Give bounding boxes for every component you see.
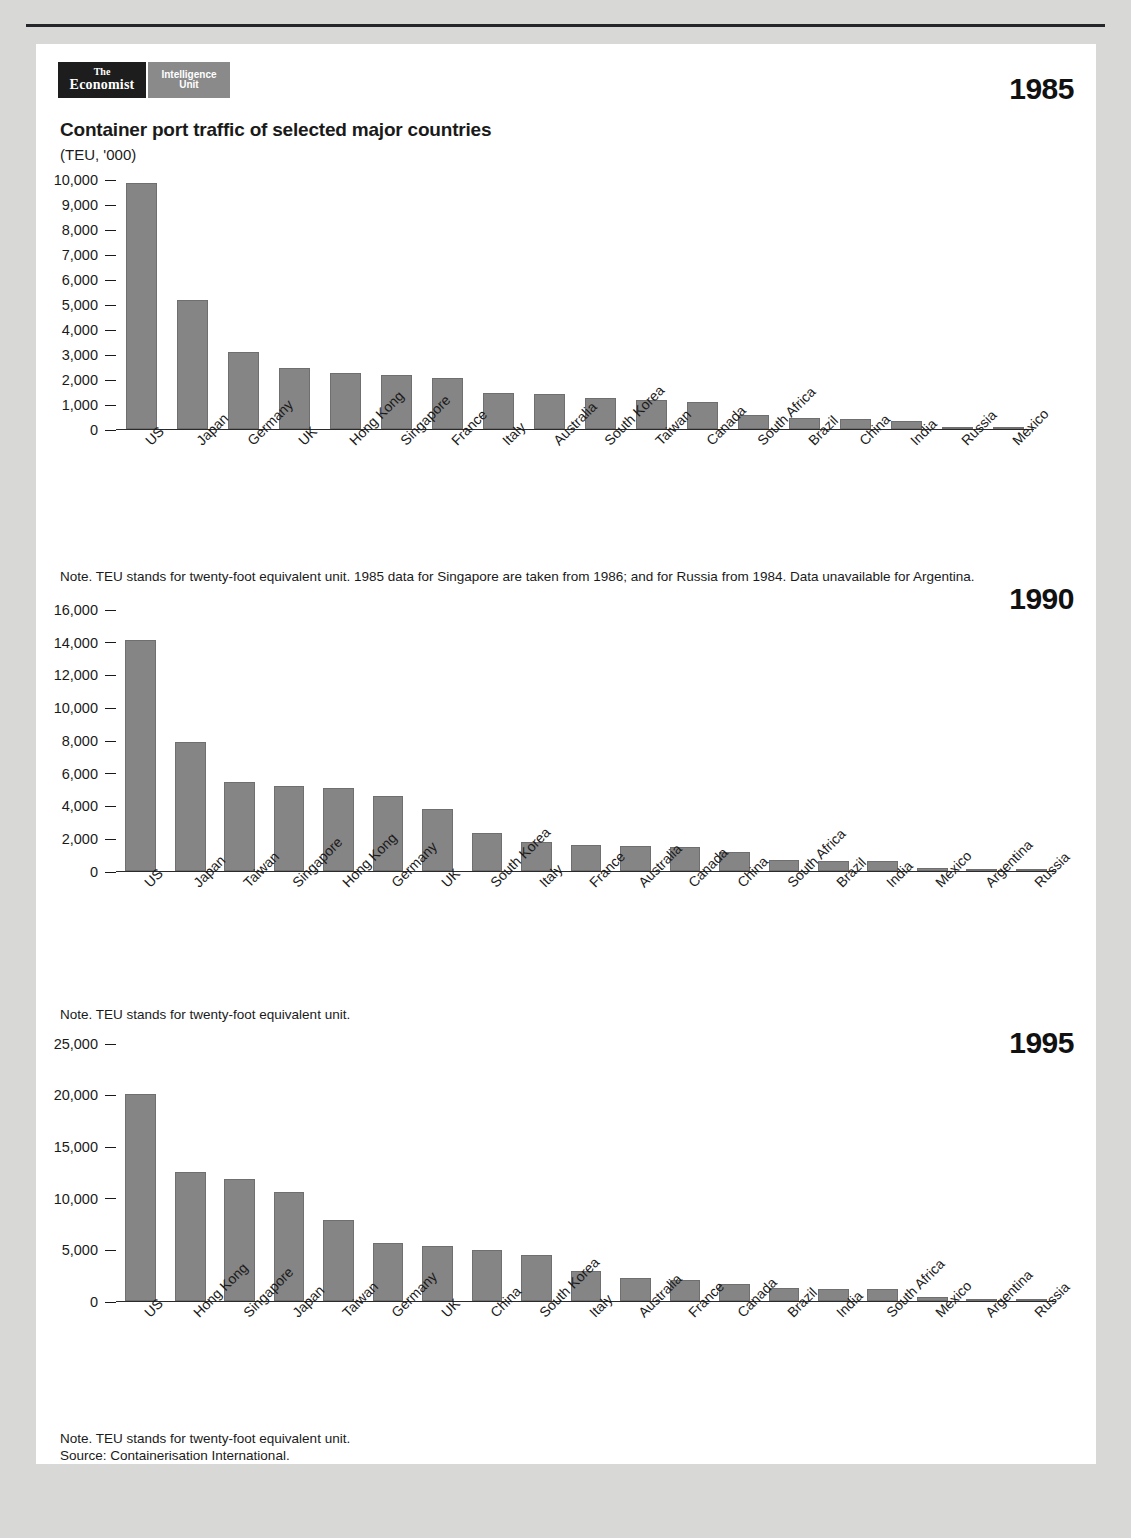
bar-slot [363,1044,412,1301]
y-tick-label: 9,000 [62,197,98,212]
bar-chart-1985: 01,0002,0003,0004,0005,0006,0007,0008,00… [36,180,1096,570]
bar-australia[interactable] [534,394,566,429]
y-tick-label: 14,000 [54,635,98,650]
bar-japan[interactable] [175,742,206,871]
x-label-slot: France [660,1304,709,1388]
y-tick-mark [105,1095,116,1096]
x-label-slot: Mexico [908,874,957,958]
note-text-line1: Note. TEU stands for twenty-foot equival… [60,1430,350,1447]
x-label-slot: Australia [611,874,660,958]
bar-us[interactable] [125,1094,156,1301]
x-label-slot: Germany [218,432,269,516]
x-label-slot: South Korea [512,1304,561,1388]
y-tick-label: 10,000 [54,172,98,187]
bar-slot [677,180,728,429]
y-tick-mark [105,741,116,742]
y-tick-mark [105,1302,116,1303]
x-label-slot: Canada [677,432,728,516]
x-label-slot: Hong Kong [165,1304,214,1388]
x-label-slot: US [116,432,167,516]
bar-slot [165,610,214,871]
y-tick-mark [105,430,116,431]
bar-germany[interactable] [228,352,260,429]
x-label-slot: Japan [264,1304,313,1388]
bar-slot [422,180,473,429]
x-label-slot: South Korea [575,432,626,516]
bar-hong-kong[interactable] [330,373,362,429]
bar-slot [116,1044,165,1301]
x-label-slot: Mexico [908,1304,957,1388]
bar-japan[interactable] [177,300,209,429]
x-label-slot: France [561,874,610,958]
note-source-line: Source: Containerisation International. [60,1447,350,1464]
bar-slot [413,1044,462,1301]
bar-slot [957,610,1006,871]
y-tick-mark [105,205,116,206]
bar-slot [575,180,626,429]
y-tick-label: 10,000 [54,701,98,716]
y-tick-label: 1,000 [62,397,98,412]
x-label-slot: US [116,1304,165,1388]
bar-slot [710,610,759,871]
bar-slot [167,180,218,429]
y-tick-label: 0 [90,864,98,879]
x-label-slot: Canada [660,874,709,958]
bar-hong-kong[interactable] [175,1172,206,1301]
y-tick-label: 8,000 [62,733,98,748]
page-subtitle: (TEU, '000) [60,146,136,163]
bar-slot [710,1044,759,1301]
y-tick-label: 5,000 [62,1243,98,1258]
y-tick-mark [105,839,116,840]
bar-south-korea[interactable] [521,1255,552,1301]
note-text: Note. TEU stands for twenty-foot equival… [60,1006,350,1023]
note-text: Note. TEU stands for twenty-foot equival… [60,568,975,585]
bar-slot [314,1044,363,1301]
x-label-slot: Argentina [957,874,1006,958]
bar-slot [908,610,957,871]
bar-us[interactable] [126,183,158,429]
intelligence-unit-logo: Intelligence Unit [148,62,230,98]
bar-taiwan[interactable] [224,782,255,871]
bar-china[interactable] [472,1250,503,1301]
bar-us[interactable] [125,640,156,871]
bar-slot [611,610,660,871]
y-tick-label: 4,000 [62,322,98,337]
y-tick-mark [105,1147,116,1148]
x-label-slot: UK [413,874,462,958]
bar-taiwan[interactable] [323,1220,354,1301]
the-economist-logo: The Economist [58,62,146,98]
x-label-slot: Taiwan [215,874,264,958]
chart-note-1985: Note. TEU stands for twenty-foot equival… [60,568,975,585]
bar-slot [809,1044,858,1301]
x-label-slot: Australia [611,1304,660,1388]
page-bottom-margin [0,1464,1131,1538]
y-tick-label: 25,000 [54,1036,98,1051]
y-tick-mark [105,380,116,381]
y-tick-mark [105,405,116,406]
x-label-slot: Singapore [264,874,313,958]
page-title: Container port traffic of selected major… [60,119,491,141]
x-label-slot: India [809,1304,858,1388]
plot-area-1990 [116,610,1056,872]
y-tick-label: 16,000 [54,602,98,617]
logo-unit: Unit [148,80,230,91]
bar-slot [462,610,511,871]
y-tick-mark [105,1198,116,1199]
bar-slot [269,180,320,429]
x-label-slot: South Africa [858,1304,907,1388]
year-label-1985: 1985 [1009,72,1074,106]
y-tick-label: 3,000 [62,347,98,362]
x-label-slot: Canada [710,1304,759,1388]
bar-slot [320,180,371,429]
bar-south-korea[interactable] [472,833,503,871]
y-tick-mark [105,1044,116,1045]
report-sheet: The Economist Intelligence Unit 1985 Con… [36,44,1096,1464]
bar-slot [660,610,709,871]
bar-italy[interactable] [483,393,515,429]
x-label-slot: Germany [363,1304,412,1388]
y-tick-label: 15,000 [54,1139,98,1154]
economist-eiu-logo: The Economist Intelligence Unit [58,62,230,98]
y-tick-label: 7,000 [62,247,98,262]
x-label-slot: Italy [473,432,524,516]
y-tick-mark [105,280,116,281]
